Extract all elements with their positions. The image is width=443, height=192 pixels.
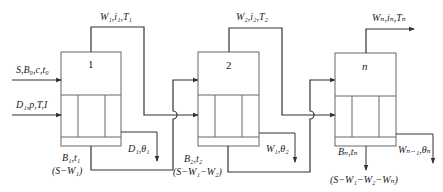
product-2-label: B₂,t₂: [184, 153, 202, 164]
product-1-label: B₁,t₁: [62, 152, 80, 163]
condensate-1-label: D₁,θ₁: [128, 143, 150, 154]
vapor-1-label: W₁,i₁,T₁: [100, 11, 132, 22]
effect-1-label: 1: [88, 58, 94, 70]
condensate-2-label: W₁,θ₂: [266, 143, 289, 154]
vapor-n-line: [366, 29, 414, 53]
evaporator-diagram: [0, 0, 443, 192]
product-1-flow-label: (S−W₁): [52, 165, 82, 176]
vapor-n-label: Wₙ,iₙ,Tₙ: [372, 12, 406, 23]
condensate-n-label: Wₙ₋₁,θₙ: [398, 144, 431, 155]
effect-2-label: 2: [226, 59, 232, 71]
feed-label: S,B₀,c,t₀: [16, 64, 49, 75]
steam-label: D₁,p,T,I: [16, 99, 47, 110]
effect-n-label: n: [362, 60, 368, 72]
vapor-1-line: [91, 27, 198, 115]
product-n-flow-label: (S−W₁−W₂−Wₙ): [330, 174, 398, 185]
vapor-2-line: [229, 28, 335, 115]
product-n-label: Bₙ,tₙ: [338, 146, 358, 157]
product-2-flow-label: (S−W₁−W₂): [173, 166, 222, 177]
vapor-2-label: W₂,i₂,T₂: [236, 11, 268, 22]
